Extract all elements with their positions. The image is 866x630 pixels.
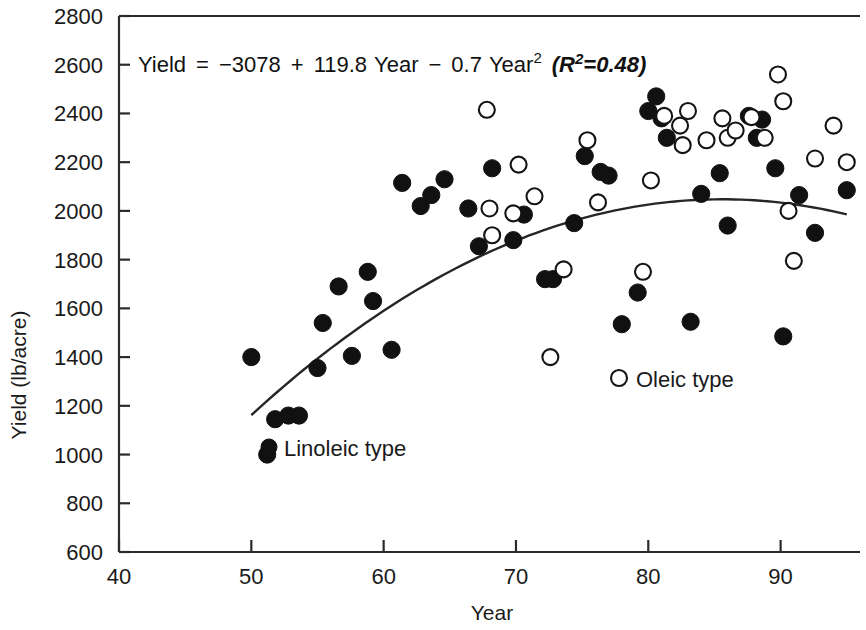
axes bbox=[119, 16, 860, 552]
data-point-linoleic bbox=[838, 182, 855, 199]
data-point-oleic bbox=[656, 108, 672, 124]
y-axis-tick-labels: 6008001000120014001600180020002200240026… bbox=[54, 4, 103, 565]
y-tick-label: 1600 bbox=[54, 296, 103, 321]
data-point-oleic bbox=[839, 154, 855, 170]
x-tick-label: 90 bbox=[768, 564, 792, 589]
equation-text: Yield=−3078+119.8Year−0.7Year2(R2=0.48) bbox=[138, 49, 646, 77]
quadratic-fit-curve bbox=[251, 199, 846, 415]
x-axis-title: Year bbox=[471, 601, 513, 624]
data-point-linoleic bbox=[343, 347, 360, 364]
data-point-linoleic bbox=[314, 314, 331, 331]
legend-marker-open-circle-icon bbox=[611, 370, 627, 386]
data-point-linoleic bbox=[648, 88, 665, 105]
y-tick-label: 1800 bbox=[54, 248, 103, 273]
data-point-oleic bbox=[680, 103, 696, 119]
x-axis-tick-labels: 405060708090 bbox=[107, 564, 793, 589]
data-point-linoleic bbox=[791, 186, 808, 203]
data-point-oleic bbox=[479, 102, 495, 118]
data-point-oleic bbox=[672, 118, 688, 134]
scatter-plot-figure: 6008001000120014001600180020002200240026… bbox=[0, 0, 866, 630]
data-point-linoleic bbox=[243, 348, 260, 365]
data-point-linoleic bbox=[682, 313, 699, 330]
data-point-linoleic bbox=[460, 200, 477, 217]
data-points-oleic bbox=[479, 66, 855, 365]
data-point-oleic bbox=[744, 109, 760, 125]
data-point-oleic bbox=[556, 261, 572, 277]
data-point-linoleic bbox=[775, 328, 792, 345]
y-tick-label: 2400 bbox=[54, 101, 103, 126]
regression-equation-annotation: Yield=−3078+119.8Year−0.7Year2(R2=0.48) bbox=[138, 49, 646, 77]
y-axis-title: Yield (lb/acre) bbox=[7, 311, 30, 440]
data-point-linoleic bbox=[658, 129, 675, 146]
data-point-oleic bbox=[590, 194, 606, 210]
data-point-linoleic bbox=[711, 165, 728, 182]
data-point-oleic bbox=[505, 205, 521, 221]
data-point-oleic bbox=[511, 157, 527, 173]
data-point-oleic bbox=[542, 349, 558, 365]
y-tick-label: 2800 bbox=[54, 4, 103, 29]
data-point-linoleic bbox=[290, 407, 307, 424]
x-tick-label: 40 bbox=[107, 564, 131, 589]
legend-entry-linoleic: Linoleic type bbox=[261, 436, 406, 461]
data-point-linoleic bbox=[613, 316, 630, 333]
data-point-oleic bbox=[807, 151, 823, 167]
y-tick-label: 1400 bbox=[54, 345, 103, 370]
data-point-linoleic bbox=[505, 232, 522, 249]
data-point-oleic bbox=[775, 93, 791, 109]
data-point-linoleic bbox=[309, 359, 326, 376]
data-point-linoleic bbox=[719, 217, 736, 234]
data-point-linoleic bbox=[383, 341, 400, 358]
regression-fit-curve bbox=[251, 199, 846, 415]
data-point-linoleic bbox=[576, 147, 593, 164]
data-point-oleic bbox=[757, 130, 773, 146]
y-tick-label: 2600 bbox=[54, 53, 103, 78]
tick-marks bbox=[119, 16, 781, 552]
data-point-linoleic bbox=[359, 263, 376, 280]
data-point-oleic bbox=[714, 110, 730, 126]
data-point-oleic bbox=[826, 118, 842, 134]
data-point-oleic bbox=[579, 132, 595, 148]
data-point-oleic bbox=[728, 123, 744, 139]
x-tick-label: 80 bbox=[636, 564, 660, 589]
data-point-oleic bbox=[635, 264, 651, 280]
data-point-oleic bbox=[675, 137, 691, 153]
data-point-oleic bbox=[484, 227, 500, 243]
data-point-oleic bbox=[786, 253, 802, 269]
data-point-oleic bbox=[699, 132, 715, 148]
y-tick-label: 800 bbox=[66, 491, 103, 516]
x-tick-label: 60 bbox=[371, 564, 395, 589]
data-point-linoleic bbox=[484, 160, 501, 177]
data-point-linoleic bbox=[436, 171, 453, 188]
data-point-oleic bbox=[643, 172, 659, 188]
y-tick-label: 1200 bbox=[54, 394, 103, 419]
data-point-oleic bbox=[781, 203, 797, 219]
data-point-oleic bbox=[770, 66, 786, 82]
y-tick-label: 2200 bbox=[54, 150, 103, 175]
x-tick-label: 50 bbox=[239, 564, 263, 589]
data-point-linoleic bbox=[600, 167, 617, 184]
data-point-linoleic bbox=[629, 284, 646, 301]
legend-label-oleic: Oleic type bbox=[636, 367, 734, 392]
x-tick-label: 70 bbox=[504, 564, 528, 589]
data-point-linoleic bbox=[364, 292, 381, 309]
data-point-linoleic bbox=[806, 224, 823, 241]
data-point-linoleic bbox=[423, 186, 440, 203]
y-tick-label: 600 bbox=[66, 540, 103, 565]
data-point-linoleic bbox=[566, 214, 583, 231]
legend-marker-filled-circle-icon bbox=[261, 439, 277, 455]
legend-entry-oleic: Oleic type bbox=[611, 367, 734, 392]
data-point-linoleic bbox=[330, 278, 347, 295]
data-point-oleic bbox=[482, 200, 498, 216]
data-point-linoleic bbox=[767, 160, 784, 177]
data-point-oleic bbox=[526, 188, 542, 204]
chart-canvas: 6008001000120014001600180020002200240026… bbox=[0, 0, 866, 630]
y-tick-label: 1000 bbox=[54, 443, 103, 468]
y-tick-label: 2000 bbox=[54, 199, 103, 224]
data-point-linoleic bbox=[394, 174, 411, 191]
legend-label-linoleic: Linoleic type bbox=[284, 436, 406, 461]
data-point-linoleic bbox=[693, 185, 710, 202]
